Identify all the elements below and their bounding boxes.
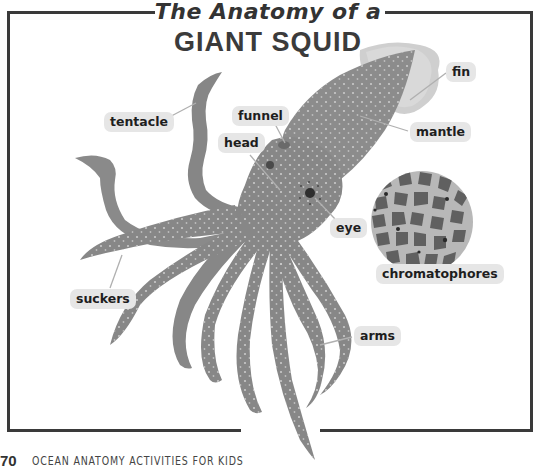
arms-dots — [80, 205, 351, 460]
book-title: OCEAN ANATOMY ACTIVITIES FOR KIDS — [32, 454, 244, 468]
label-funnel: funnel — [232, 106, 289, 126]
label-arms: arms — [354, 326, 401, 346]
label-chromatophores: chromatophores — [376, 264, 504, 284]
page-title: GIANT SQUID — [0, 27, 536, 58]
label-suckers: suckers — [70, 289, 136, 309]
label-fin: fin — [446, 62, 476, 82]
page-number: 70 — [0, 452, 17, 469]
label-tentacle: tentacle — [104, 112, 174, 132]
chromatophores-circle — [371, 171, 473, 276]
title-line1: The Anatomy of a — [0, 0, 536, 24]
label-mantle: mantle — [410, 122, 471, 142]
label-head: head — [218, 133, 265, 153]
label-eye: eye — [330, 218, 367, 238]
eye-shape — [305, 188, 315, 198]
